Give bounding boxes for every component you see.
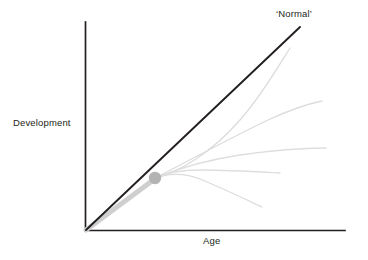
trajectory-plateau-mid	[155, 148, 326, 178]
trajectory-decline	[155, 174, 262, 207]
development-age-figure: Development Age ‘Normal’	[0, 0, 368, 260]
shared-early-trajectory	[86, 178, 156, 230]
divergence-point-marker	[149, 172, 161, 184]
normal-reference-line	[86, 27, 300, 230]
x-axis-label: Age	[203, 235, 220, 247]
y-axis-label: Development	[13, 117, 71, 129]
plot-canvas	[0, 0, 368, 260]
normal-line-label: ‘Normal’	[276, 8, 312, 20]
trajectories-group	[155, 48, 326, 207]
